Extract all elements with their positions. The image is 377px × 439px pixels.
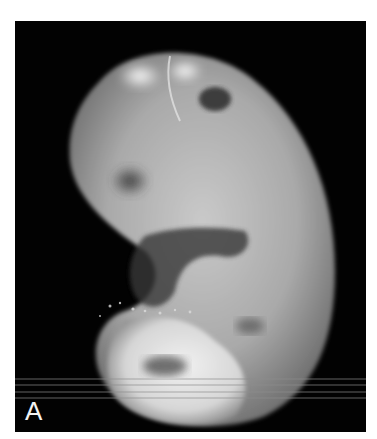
micrograph-panel: A <box>15 21 366 432</box>
scanline <box>15 397 366 399</box>
scanline <box>15 384 366 386</box>
embryo-image <box>15 21 366 432</box>
panel-label: A <box>25 398 42 424</box>
scanline <box>15 391 366 393</box>
scanline <box>15 378 366 380</box>
